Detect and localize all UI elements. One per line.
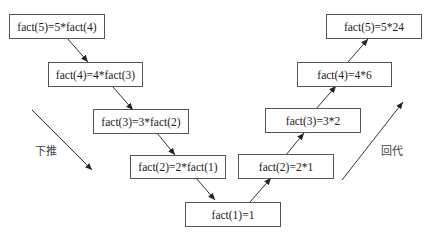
box-fact4-descend: fact(4)=4*fact(3) [48,62,143,87]
box-fact2-descend: fact(2)=2*fact(1) [130,155,226,179]
arrow-5-to-4 [67,38,88,62]
box-fact3-ascend: fact(3)=3*2 [265,108,361,133]
box-fact3-descend: fact(3)=3*fact(2) [93,109,189,134]
arrow-3-to-4 [316,86,336,109]
arrow-2-to-1 [196,178,215,200]
box-text: fact(5)=5*fact(4) [17,21,96,33]
box-fact5-ascend: fact(5)=5*24 [326,14,422,39]
arrow-4-to-5 [348,39,368,62]
arrow-1-to-2 [250,178,271,202]
descend-label: 下推 [35,142,57,158]
box-text: fact(2)=2*fact(1) [138,161,217,173]
box-text: fact(2)=2*1 [259,161,313,173]
box-fact4-ascend: fact(4)=4*6 [297,62,392,87]
ascend-label: 回代 [381,142,403,158]
box-text: fact(3)=3*2 [286,115,340,127]
box-text: fact(1)=1 [212,209,255,221]
box-text: fact(4)=4*fact(3) [56,69,135,81]
arrow-2-to-3 [286,133,304,155]
box-fact1-base: fact(1)=1 [185,202,281,227]
box-text: fact(3)=3*fact(2) [101,116,180,128]
box-fact2-ascend: fact(2)=2*1 [238,154,334,179]
box-fact5-descend: fact(5)=5*fact(4) [9,14,105,39]
descend-direction-arrow [32,110,92,170]
box-text: fact(4)=4*6 [317,69,371,81]
box-text: fact(5)=5*24 [344,21,404,33]
arrow-4-to-3 [113,87,133,110]
arrow-3-to-2 [157,133,175,155]
